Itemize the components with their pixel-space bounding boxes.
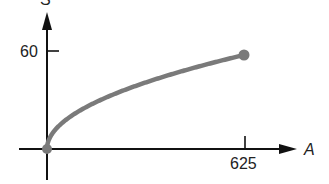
sqrt-curve (47, 55, 244, 149)
x-tick-label: 625 (230, 156, 257, 172)
y-tick-label: 60 (20, 44, 38, 60)
y-axis-label: S (40, 0, 51, 8)
y-axis-arrow-icon (42, 12, 52, 30)
end-point (239, 50, 250, 61)
x-axis-label: A (304, 142, 315, 158)
x-axis-arrow-icon (279, 144, 297, 154)
start-point (42, 144, 52, 154)
chart-canvas (0, 0, 329, 184)
